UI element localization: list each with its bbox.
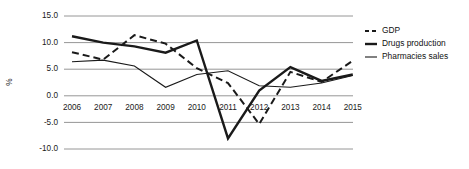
chart-legend: GDPDrugs productionPharmacies sales (365, 25, 448, 61)
y-axis-title-label: % (5, 78, 14, 85)
y-axis-tick-label: 5.0 (47, 64, 59, 73)
series-line-gdp (72, 35, 353, 124)
x-axis-tick-label: 2012 (250, 103, 269, 112)
y-axis-tick-labels: 15.010.05.00.0-5.0-10.0 (39, 11, 58, 153)
legend-item-label[interactable]: Pharmacies sales (382, 51, 448, 61)
x-axis-tick-label: 2008 (125, 103, 144, 112)
series-line-pharmacies-sales (72, 60, 353, 87)
x-axis-tick-label: 2006 (63, 103, 82, 112)
y-axis-title: % (5, 78, 14, 85)
x-axis-tick-label: 2011 (219, 103, 237, 112)
x-axis-tick-label: 2015 (344, 103, 363, 112)
y-axis-tick-label: -5.0 (44, 118, 59, 127)
y-axis-tick-label: 0.0 (47, 91, 59, 100)
y-axis-tick-label: -10.0 (39, 144, 58, 153)
y-axis-tick-label: 10.0 (42, 38, 58, 47)
x-axis-tick-labels: 2006200720082009201020112012201320142015 (63, 103, 362, 112)
data-series (72, 35, 353, 138)
gridlines (64, 16, 353, 149)
x-axis-tick-label: 2010 (188, 103, 207, 112)
legend-item-label[interactable]: Drugs production (382, 38, 446, 48)
chart-container: 15.010.05.00.0-5.0-10.0 2006200720082009… (0, 0, 469, 169)
legend-item-label[interactable]: GDP (382, 25, 401, 35)
x-axis-tick-label: 2014 (312, 103, 331, 112)
y-axis-tick-label: 15.0 (42, 11, 58, 20)
x-axis-tick-label: 2009 (156, 103, 175, 112)
x-axis-tick-label: 2007 (94, 103, 113, 112)
line-chart: 15.010.05.00.0-5.0-10.0 2006200720082009… (0, 0, 469, 169)
x-axis-tick-label: 2013 (281, 103, 300, 112)
